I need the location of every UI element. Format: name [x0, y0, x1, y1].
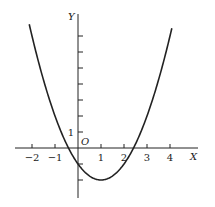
x-tick-label: −1: [48, 152, 63, 163]
x-tick-label: 2: [121, 152, 127, 163]
x-tick-label: 4: [167, 152, 173, 163]
parabola-chart: X Y O −2−11234 1: [0, 0, 215, 207]
x-tick-label: −2: [25, 152, 40, 163]
x-tick-labels: −2−11234: [25, 152, 174, 163]
x-tick-label: 1: [98, 152, 104, 163]
x-axis-label: X: [189, 151, 198, 162]
y-tick-label: 1: [68, 127, 74, 138]
axes: [15, 14, 198, 198]
y-axis-label: Y: [68, 11, 76, 22]
x-tick-label: 3: [144, 152, 150, 163]
y-tick-labels: 1: [68, 127, 74, 138]
origin-label: O: [81, 136, 89, 147]
